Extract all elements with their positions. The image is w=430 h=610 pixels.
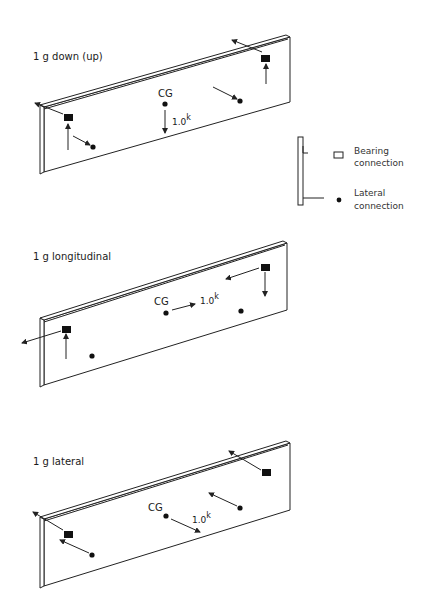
- legend: Bearing connection Lateral connection: [298, 137, 404, 211]
- panel-lateral: 1 g lateral CG 1.0k: [33, 441, 290, 588]
- bearing-connection-icon: [334, 152, 343, 158]
- cg-point-icon: [163, 513, 168, 518]
- lateral-connection-icon: [238, 308, 243, 313]
- panel-longitudinal: 1 g longitudinal CG 1.0k: [22, 241, 287, 387]
- lateral-connection-icon: [337, 198, 342, 203]
- bearing-connection-icon: [64, 114, 73, 121]
- cg-label: CG: [158, 88, 173, 99]
- legend-lateral-label: Lateral: [354, 188, 385, 198]
- cg-point-icon: [163, 310, 168, 315]
- legend-lateral-label: connection: [354, 201, 404, 211]
- panel-title: 1 g longitudinal: [33, 251, 111, 262]
- lateral-connection-icon: [237, 98, 242, 103]
- lateral-connection-icon: [90, 144, 95, 149]
- diagram-canvas: 1 g down (up) CG 1.0k Bearing: [0, 0, 430, 610]
- wall-panel: [40, 241, 287, 387]
- cg-point-icon: [162, 101, 167, 106]
- bearing-connection-icon: [261, 264, 270, 271]
- lateral-connection-icon: [89, 353, 94, 358]
- panel-title: 1 g down (up): [33, 51, 103, 62]
- bearing-connection-icon: [62, 326, 71, 333]
- bearing-connection-icon: [64, 531, 73, 538]
- cg-label: CG: [148, 502, 163, 513]
- cg-label: CG: [154, 296, 169, 307]
- legend-bearing-label: Bearing: [354, 146, 389, 156]
- bearing-connection-icon: [262, 469, 271, 476]
- legend-bearing-label: connection: [354, 158, 404, 168]
- lateral-connection-icon: [89, 552, 94, 557]
- panel-down: 1 g down (up) CG 1.0k: [33, 35, 290, 174]
- wall-section-icon: [298, 137, 303, 205]
- bearing-connection-icon: [261, 55, 270, 62]
- lateral-connection-icon: [237, 505, 242, 510]
- panel-title: 1 g lateral: [33, 456, 84, 467]
